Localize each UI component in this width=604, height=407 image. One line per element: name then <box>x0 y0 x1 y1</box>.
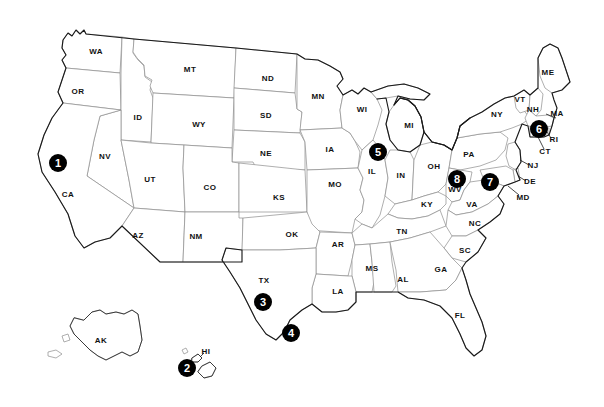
state-label-sd: SD <box>260 112 272 120</box>
state-label-nh: NH <box>527 106 539 114</box>
state-label-ut: UT <box>144 176 155 184</box>
state-label-tn: TN <box>396 228 407 236</box>
state-ks[interactable] <box>239 163 307 212</box>
state-ar[interactable] <box>316 232 355 276</box>
state-label-il: IL <box>368 168 376 176</box>
state-label-mo: MO <box>328 181 342 189</box>
state-shapes <box>38 30 570 356</box>
location-marker-3[interactable]: 3 <box>254 293 272 311</box>
state-label-oh: OH <box>428 163 441 171</box>
state-label-nc: NC <box>469 220 481 228</box>
state-label-ne: NE <box>260 150 272 158</box>
state-label-ok: OK <box>286 231 299 239</box>
state-label-vt: VT <box>514 96 525 104</box>
state-label-mi: MI <box>404 122 414 130</box>
state-label-hi: HI <box>202 348 211 356</box>
state-label-mt: MT <box>184 66 196 74</box>
state-label-co: CO <box>204 184 217 192</box>
us-map: WAORIDMTWYNDSDNEMNIAWIMINVUTCACOKSMOILIN… <box>0 0 604 407</box>
state-label-va: VA <box>466 201 477 209</box>
state-label-ny: NY <box>491 111 503 119</box>
state-label-ms: MS <box>366 265 379 273</box>
location-marker-5[interactable]: 5 <box>369 143 387 161</box>
state-co[interactable] <box>183 145 239 212</box>
state-label-nm: NM <box>189 233 202 241</box>
state-label-sc: SC <box>459 247 471 255</box>
state-label-tx: TX <box>258 277 269 285</box>
location-marker-6[interactable]: 6 <box>530 120 548 138</box>
location-marker-7[interactable]: 7 <box>481 173 499 191</box>
state-ak[interactable] <box>48 310 142 360</box>
state-label-md: MD <box>516 194 529 202</box>
location-marker-8[interactable]: 8 <box>448 170 466 188</box>
state-nd[interactable] <box>234 48 297 93</box>
state-label-or: OR <box>72 88 85 96</box>
state-label-ma: MA <box>550 110 563 118</box>
state-label-ga: GA <box>435 266 448 274</box>
state-label-ks: KS <box>273 194 285 202</box>
state-label-pa: PA <box>463 151 474 159</box>
state-label-ri: RI <box>550 136 559 144</box>
state-label-nv: NV <box>99 153 111 161</box>
state-label-ia: IA <box>326 146 335 154</box>
state-label-me: ME <box>542 69 555 77</box>
state-label-wi: WI <box>357 106 368 114</box>
state-label-fl: FL <box>455 312 466 320</box>
state-label-la: LA <box>332 288 343 296</box>
state-label-ak: AK <box>95 337 107 345</box>
state-label-az: AZ <box>132 232 143 240</box>
state-label-ar: AR <box>332 241 344 249</box>
location-marker-1[interactable]: 1 <box>49 154 67 172</box>
state-mo[interactable] <box>307 168 364 233</box>
state-label-id: ID <box>134 114 143 122</box>
location-marker-2[interactable]: 2 <box>178 359 196 377</box>
state-label-in: IN <box>397 172 406 180</box>
map-geometry <box>0 0 604 407</box>
state-label-ct: CT <box>539 148 550 156</box>
state-label-nd: ND <box>262 75 274 83</box>
location-marker-4[interactable]: 4 <box>282 324 300 342</box>
state-label-al: AL <box>397 276 408 284</box>
state-label-de: DE <box>524 178 536 186</box>
state-label-mn: MN <box>311 93 324 101</box>
state-label-ca: CA <box>62 191 74 199</box>
state-label-ky: KY <box>421 201 433 209</box>
state-label-wa: WA <box>89 48 103 56</box>
state-label-wy: WY <box>192 121 206 129</box>
state-ok[interactable] <box>242 212 320 250</box>
state-label-nj: NJ <box>527 162 538 170</box>
